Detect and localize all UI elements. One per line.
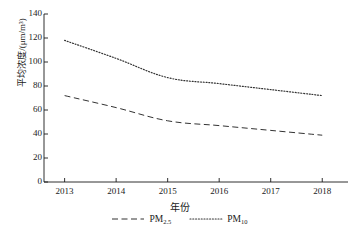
chart-figure: 平均浓度/(μm/m³) 020406080100120140 20132014… [0,0,359,236]
legend-line-swatch-PM10 [189,215,223,223]
series-line-PM10 [65,40,323,95]
x-axis-tick-label: 2016 [199,186,239,196]
x-axis-title: 年份 [0,199,359,214]
x-axis-tick-label: 2018 [302,186,342,196]
x-axis-tick-label: 2015 [148,186,188,196]
legend-line-swatch-PM2-5 [111,215,145,223]
x-axis-tick-label: 2014 [96,186,136,196]
chart-legend: PM2.5PM10 [0,214,359,224]
x-axis-tick-label: 2017 [251,186,291,196]
legend-item-PM2-5[interactable]: PM2.5 [111,214,171,224]
legend-label-PM10: PM10 [227,214,247,224]
series-line-PM2-5 [65,96,323,136]
x-axis-tick-labels: 201320142015201620172018 [0,186,359,200]
legend-item-PM10[interactable]: PM10 [189,214,247,224]
legend-label-PM2-5: PM2.5 [149,214,171,224]
x-axis-tick-label: 2013 [45,186,85,196]
